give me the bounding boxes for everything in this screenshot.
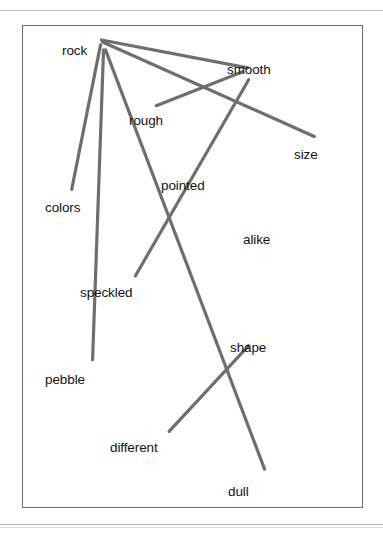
edge-layer — [23, 26, 362, 507]
edge-rock-pebble — [93, 50, 104, 360]
node-label-smooth[interactable]: smooth — [227, 62, 271, 77]
node-label-rough[interactable]: rough — [129, 113, 163, 128]
page-rule-top — [0, 10, 383, 11]
node-label-pebble[interactable]: pebble — [45, 372, 85, 387]
node-label-speckled[interactable]: speckled — [80, 285, 132, 300]
edge-rock-smooth — [102, 40, 248, 68]
node-label-dull[interactable]: dull — [228, 484, 249, 499]
node-label-size[interactable]: size — [294, 147, 318, 162]
edge-rock-colors — [72, 45, 101, 189]
page-rule-bottom-secondary — [0, 527, 383, 528]
node-label-pointed[interactable]: pointed — [161, 178, 205, 193]
page-rule-bottom — [0, 524, 383, 525]
node-label-colors[interactable]: colors — [45, 200, 80, 215]
node-label-shape[interactable]: shape — [230, 340, 266, 355]
concept-map-canvas — [23, 26, 362, 507]
node-label-rock[interactable]: rock — [62, 43, 87, 58]
node-label-alike[interactable]: alike — [243, 232, 270, 247]
node-label-different[interactable]: different — [110, 440, 158, 455]
concept-map-frame: rocksmoothroughsizepointedalikecolorsspe… — [22, 25, 363, 508]
edge-shape-different — [169, 346, 249, 432]
